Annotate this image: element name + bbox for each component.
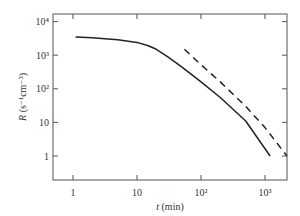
plot-frame	[53, 14, 287, 180]
y-tick-label: 1	[44, 151, 49, 162]
y-tick-label: 10	[39, 117, 49, 128]
x-tick-label: 10²	[195, 187, 208, 198]
axis-ticks: 11010²10³11010²10³10⁴	[36, 14, 288, 198]
y-tick-label: 10³	[36, 50, 49, 61]
y-axis-label: R (s⁻¹cm⁻³)	[17, 73, 29, 122]
x-tick-label: 10³	[259, 187, 272, 198]
x-axis-label: t (min)	[156, 201, 184, 213]
x-tick-label: 1	[71, 187, 76, 198]
series-line-solid	[76, 37, 271, 156]
y-tick-label: 10⁴	[36, 16, 50, 27]
y-tick-label: 10²	[36, 83, 49, 94]
x-tick-label: 10	[132, 187, 142, 198]
series-line-dashed	[184, 49, 287, 156]
data-series	[76, 37, 287, 156]
chart: 11010²10³11010²10³10⁴ t (min) R (s⁻¹cm⁻³…	[0, 0, 300, 216]
